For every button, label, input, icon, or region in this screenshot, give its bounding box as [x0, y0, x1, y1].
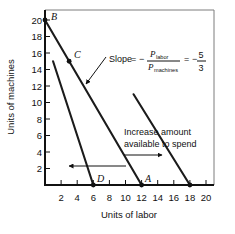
x-axis-tick-labels: 2 4 6 8 10 12 14 16 18 20: [58, 192, 211, 203]
y-axis-tick-labels: 2 4 6 8 10 12 14 16 18 20: [31, 15, 42, 175]
y-tick-label: 10: [31, 97, 42, 108]
y-tick-label: 8: [37, 114, 42, 125]
x-tick-label: 6: [91, 192, 96, 203]
plot-area-background: [45, 10, 214, 185]
y-tick-label: 6: [37, 130, 42, 141]
y-tick-label: 20: [31, 15, 42, 26]
data-point-increased-intercept: [188, 183, 193, 188]
point-label-A: A: [144, 173, 152, 184]
point-label-C: C: [74, 49, 81, 60]
x-tick-label: 18: [185, 192, 196, 203]
increase-note-line-2: available to spend: [124, 139, 197, 149]
chart-figure: 2 4 6 8 10 12 14 16 18 20 2 4: [0, 0, 235, 234]
point-label-B: B: [51, 11, 57, 22]
budget-line-chart: 2 4 6 8 10 12 14 16 18 20 2 4: [0, 0, 235, 234]
slope-formula-denominator-symbol: P: [147, 62, 154, 72]
slope-formula-minus: −: [139, 54, 144, 64]
y-tick-label: 14: [31, 64, 42, 75]
slope-formula-equals-2: =: [184, 54, 189, 64]
y-tick-label: 12: [31, 81, 42, 92]
slope-result-denominator: 3: [198, 63, 203, 73]
point-label-D: D: [96, 173, 105, 184]
x-tick-label: 10: [120, 192, 131, 203]
slope-formula-denominator-subscript: machines: [154, 67, 178, 73]
data-point-D: [91, 183, 96, 188]
slope-result-numerator: 5: [198, 50, 203, 60]
x-axis-title: Units of labor: [101, 209, 157, 220]
data-point-C: [67, 59, 72, 64]
x-tick-label: 12: [136, 192, 147, 203]
y-tick-label: 2: [37, 163, 42, 174]
y-tick-label: 18: [31, 31, 42, 42]
data-point-B: [43, 18, 48, 23]
slope-formula-minus-2: −: [192, 54, 197, 64]
slope-formula-numerator-symbol: P: [149, 49, 156, 59]
x-tick-label: 4: [75, 192, 80, 203]
x-tick-label: 2: [58, 192, 63, 203]
x-tick-label: 16: [169, 192, 180, 203]
slope-formula-equals: =: [131, 54, 136, 64]
x-tick-label: 20: [201, 192, 212, 203]
x-tick-label: 8: [107, 192, 112, 203]
increase-note-line-1: Increase amount: [124, 127, 192, 137]
slope-formula-numerator-subscript: labor: [156, 54, 169, 60]
y-axis-title: Units of machines: [5, 59, 16, 135]
data-point-A: [139, 183, 144, 188]
slope-formula-lead: Slope: [109, 54, 132, 64]
y-tick-label: 16: [31, 48, 42, 59]
x-tick-label: 14: [152, 192, 163, 203]
y-tick-label: 4: [37, 147, 42, 158]
